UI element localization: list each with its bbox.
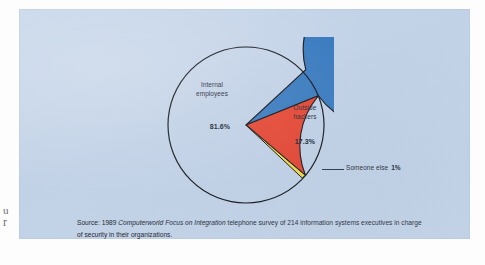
slice-label-internal-employees: Internal employees (179, 81, 245, 98)
figure-page: u r Internal employees 81.6% Outsid (0, 0, 485, 265)
pie-chart-svg (158, 37, 334, 213)
chart-panel: Internal employees 81.6% Outside hackers… (19, 9, 470, 239)
slice-callout-someone-else-value: 1% (391, 164, 401, 171)
slice-label-internal-employees-line1: Internal (201, 81, 223, 88)
slice-label-outside-hackers-line1: Outside (294, 104, 317, 111)
pie-chart (158, 37, 334, 213)
slice-value-internal-employees: 81.6% (200, 123, 240, 130)
slice-label-outside-hackers: Outside hackers (277, 104, 333, 121)
slice-callout-someone-else-label: Someone else (346, 164, 388, 171)
margin-text-fragment-2: r (3, 217, 7, 228)
slice-callout-someone-else: Someone else1% (346, 164, 401, 171)
source-note-publication-title: Computerworld Focus on Integration (118, 219, 225, 226)
source-note-prefix: Source: 1989 (77, 219, 118, 226)
source-note: Source: 1989 Computerworld Focus on Inte… (77, 217, 427, 240)
slice-label-outside-hackers-line2: hackers (293, 113, 316, 120)
callout-leader-line (322, 169, 344, 170)
slice-value-outside-hackers: 17.3% (283, 138, 327, 145)
slice-label-internal-employees-line2: employees (196, 90, 228, 97)
